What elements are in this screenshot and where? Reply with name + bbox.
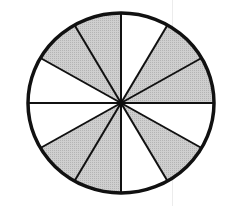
center-point bbox=[118, 100, 124, 106]
fraction-circle-diagram bbox=[0, 0, 226, 206]
